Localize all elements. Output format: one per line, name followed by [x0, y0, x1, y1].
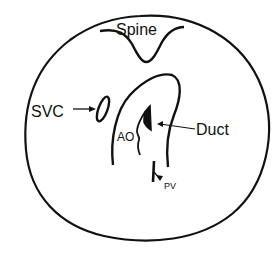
cross-section-diagram: Spine SVC AO Duct PV [0, 0, 277, 255]
svc-label: SVC [31, 103, 64, 120]
duct-structure [144, 106, 151, 130]
duct-arrowhead-icon [157, 121, 163, 127]
duct-pointer [160, 124, 195, 129]
spine-label: Spine [116, 21, 157, 38]
svc-arrowhead-icon [89, 106, 96, 112]
duct-label: Duct [196, 121, 229, 138]
pv-line [153, 161, 154, 182]
body-outline [25, 16, 269, 241]
ao-label: AO [117, 130, 134, 144]
svc-vessel [94, 95, 111, 123]
diagram-canvas: Spine SVC AO Duct PV [0, 0, 277, 255]
pv-label: PV [164, 181, 176, 191]
